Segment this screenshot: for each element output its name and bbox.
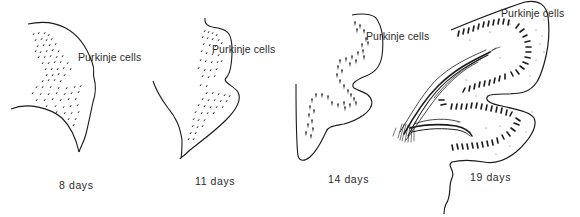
panel-8-cells (32, 32, 81, 126)
panel-14-purkinje-label: Purkinje cells (366, 30, 429, 42)
panel-11-days (153, 18, 239, 159)
panel-14-cells (305, 22, 369, 140)
panel-8-age-label: 8 days (59, 179, 94, 191)
panel-8-outline-top (28, 22, 96, 152)
panel-11-outline (153, 18, 239, 159)
purkinje-development-figure: Purkinje cells Purkinje cells Purkinje c… (0, 0, 580, 217)
panel-11-purkinje-label: Purkinje cells (212, 43, 275, 55)
panel-8-days (11, 22, 96, 152)
panel-14-age-label: 14 days (328, 173, 369, 185)
panel-19-cells (439, 19, 531, 150)
panel-8-purkinje-label: Purkinje cells (78, 51, 141, 63)
panel-19-fibers (393, 47, 500, 142)
panel-11-age-label: 11 days (195, 175, 235, 187)
panel-8-outline-bottom (11, 106, 79, 152)
panel-19-purkinje-label: Purkinje cells (501, 7, 564, 19)
panel-19-age-label: 19 days (470, 171, 511, 183)
